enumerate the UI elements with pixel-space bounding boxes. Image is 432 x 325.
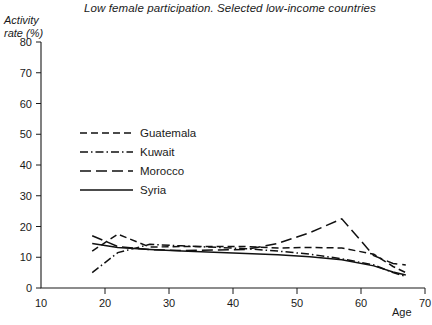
y-tick-label: 60: [20, 98, 32, 110]
axis-lines: [41, 42, 425, 288]
y-tick-label: 40: [20, 159, 32, 171]
x-tick-label: 30: [163, 297, 175, 309]
y-tick-label: 10: [20, 251, 32, 263]
x-axis-ticks: 10203040506070: [35, 288, 431, 309]
y-tick-label: 30: [20, 190, 32, 202]
plot-area: 01020304050607080 10203040506070 Guatema…: [0, 0, 432, 325]
x-tick-label: 70: [419, 297, 431, 309]
series-line-morocco: [92, 219, 406, 265]
y-tick-label: 0: [26, 282, 32, 294]
series-line-syria: [92, 243, 406, 275]
chart-figure: Low female participation. Selected low-i…: [0, 0, 432, 325]
chart-legend: GuatemalaKuwaitMoroccoSyria: [80, 127, 197, 196]
legend-label-guatemala: Guatemala: [140, 127, 197, 139]
x-tick-label: 60: [355, 297, 367, 309]
y-axis-ticks: 01020304050607080: [20, 36, 41, 294]
legend-label-syria: Syria: [140, 184, 167, 196]
y-tick-label: 70: [20, 67, 32, 79]
y-tick-label: 80: [20, 36, 32, 48]
data-series-group: [92, 219, 406, 277]
x-tick-label: 50: [291, 297, 303, 309]
y-tick-label: 50: [20, 128, 32, 140]
legend-label-morocco: Morocco: [140, 165, 184, 177]
legend-label-kuwait: Kuwait: [140, 146, 175, 158]
x-tick-label: 40: [227, 297, 239, 309]
x-tick-label: 20: [99, 297, 111, 309]
x-tick-label: 10: [35, 297, 47, 309]
y-tick-label: 20: [20, 221, 32, 233]
